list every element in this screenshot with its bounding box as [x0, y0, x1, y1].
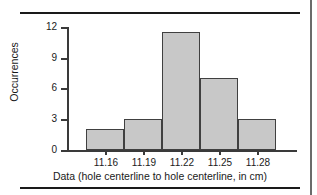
y-tick-label-3: 3 [17, 114, 57, 124]
histogram-figure: 0 3 6 9 12 11.16 11.19 11.22 11.25 11.28… [0, 0, 317, 195]
y-tick-3 [61, 119, 67, 121]
y-tick-label-0: 0 [17, 145, 57, 155]
x-tick-label-5: 11.28 [236, 157, 280, 168]
x-tick-5 [257, 150, 259, 155]
y-tick-label-6: 6 [17, 83, 57, 93]
histogram-bar-1 [86, 129, 124, 150]
y-tick-label-12: 12 [17, 22, 57, 32]
histogram-bar-3 [162, 32, 200, 150]
y-tick-9 [61, 58, 67, 60]
x-axis-title: Data (hole centerline to hole centerline… [20, 170, 300, 182]
histogram-bar-4 [200, 78, 238, 150]
y-tick-6 [61, 88, 67, 90]
y-tick-12 [61, 27, 67, 29]
x-tick-2 [143, 150, 145, 155]
histogram-bar-5 [238, 119, 276, 150]
y-tick-label-9: 9 [17, 53, 57, 63]
histogram-bar-2 [124, 119, 162, 150]
y-axis-title: Occurrences [8, 32, 20, 112]
x-tick-1 [105, 150, 107, 155]
y-tick-0 [61, 150, 67, 152]
x-tick-4 [219, 150, 221, 155]
x-tick-3 [181, 150, 183, 155]
y-axis-line [67, 27, 69, 151]
plot-area: 0 3 6 9 12 11.16 11.19 11.22 11.25 11.28… [0, 0, 317, 195]
